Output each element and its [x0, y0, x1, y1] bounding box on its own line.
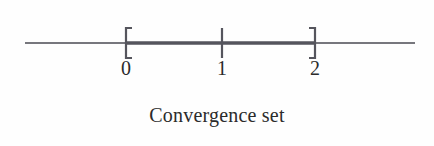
- tick-label-0: 0: [111, 58, 141, 78]
- convergence-set-figure: 0 1 2 Convergence set: [0, 0, 434, 146]
- tick-label-2: 2: [300, 58, 330, 78]
- tick-label-1: 1: [207, 58, 237, 78]
- number-line-diagram: [0, 0, 434, 100]
- figure-caption: Convergence set: [0, 104, 434, 127]
